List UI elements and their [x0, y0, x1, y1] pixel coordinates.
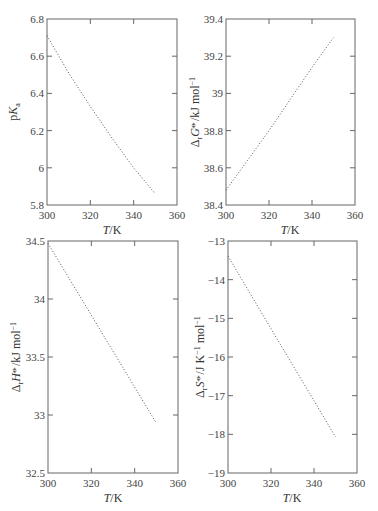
y-tick-label-pka: 6.8 — [30, 13, 44, 25]
y-tick-label-delta-s: −14 — [208, 274, 226, 286]
y-axis-title-pka: pKa — [6, 103, 22, 121]
x-tick-label-delta-s: 340 — [306, 477, 323, 489]
y-tick-label-delta-g: 38.8 — [204, 125, 224, 137]
y-axis-title-delta-s: ΔrS⦵/J K−1 mol−1 — [193, 316, 209, 398]
series-line-pka — [47, 36, 155, 194]
x-axis-title-delta-s: T/K — [283, 491, 302, 505]
x-tick-label-delta-g: 320 — [261, 209, 278, 221]
y-tick-label-pka: 6.4 — [30, 87, 44, 99]
x-axis-title-delta-h: T/K — [104, 491, 123, 505]
x-tick-label-pka: 320 — [82, 209, 99, 221]
y-tick-label-pka: 6.2 — [30, 125, 44, 137]
y-tick-label-delta-g: 39.2 — [204, 50, 223, 62]
y-tick-label-delta-h: 32.5 — [26, 467, 46, 479]
y-tick-label-delta-s: −17 — [208, 390, 226, 402]
x-tick-label-delta-h: 360 — [170, 477, 187, 489]
y-tick-label-delta-s: −13 — [208, 235, 226, 247]
x-axis-title-pka: T/K — [103, 223, 122, 237]
y-tick-label-delta-s: −16 — [208, 351, 226, 363]
y-tick-label-delta-s: −18 — [208, 428, 226, 440]
y-tick-label-delta-h: 33 — [34, 409, 46, 421]
x-tick-label-pka: 340 — [125, 209, 142, 221]
x-tick-label-delta-g: 340 — [304, 209, 321, 221]
plot-frame-pka — [47, 19, 177, 205]
y-tick-label-pka: 6 — [39, 162, 45, 174]
panel-delta-s: ΔrS⦵/J K−1 mol−1 T/K 300320340360−19−18−… — [193, 235, 366, 505]
panel-delta-g: ΔrG⦵/kJ mol−1 T/K 30032034036038.438.638… — [188, 13, 364, 237]
x-tick-label-delta-g: 360 — [347, 209, 364, 221]
x-tick-label-pka: 360 — [169, 209, 186, 221]
panel-delta-h: ΔrH⦵/kJ mol−1 T/K 30032034036032.53333.5… — [9, 235, 187, 505]
y-axis-title-delta-g: ΔrG⦵/kJ mol−1 — [188, 77, 204, 147]
y-tick-label-delta-s: −19 — [208, 467, 226, 479]
series-line-delta-g — [226, 38, 334, 191]
y-axis-title-delta-h: ΔrH⦵/kJ mol−1 — [9, 322, 25, 392]
y-tick-label-delta-s: −15 — [208, 312, 226, 324]
y-tick-label-pka: 6.6 — [30, 50, 44, 62]
y-tick-label-delta-h: 34 — [34, 293, 46, 305]
x-tick-label-delta-h: 320 — [83, 477, 100, 489]
figure: pKa T/K 3003203403605.866.26.46.66.8 ΔrG… — [0, 0, 378, 511]
x-axis-title-delta-g: T/K — [281, 223, 300, 237]
y-tick-label-delta-g: 39.4 — [204, 13, 224, 25]
y-tick-label-delta-h: 34.5 — [26, 235, 46, 247]
series-line-delta-s — [228, 256, 336, 437]
y-tick-label-delta-g: 39 — [212, 87, 224, 99]
plot-frame-delta-h — [48, 241, 178, 473]
y-tick-label-delta-g: 38.6 — [204, 162, 224, 174]
panel-pka: pKa T/K 3003203403605.866.26.46.66.8 — [6, 13, 186, 237]
x-tick-label-delta-h: 340 — [126, 477, 143, 489]
plot-frame-delta-s — [228, 241, 357, 473]
x-tick-label-delta-s: 320 — [263, 477, 280, 489]
y-tick-label-pka: 5.8 — [30, 199, 44, 211]
plot-frame-delta-g — [226, 19, 355, 205]
y-tick-label-delta-g: 38.4 — [204, 199, 224, 211]
y-tick-label-delta-h: 33.5 — [26, 351, 46, 363]
x-tick-label-delta-s: 360 — [349, 477, 366, 489]
series-line-delta-h — [48, 243, 156, 423]
